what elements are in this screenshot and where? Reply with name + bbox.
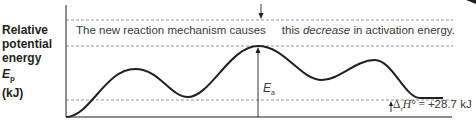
activation-energy-arrowhead xyxy=(256,47,261,53)
decrease-arrowhead xyxy=(259,13,264,19)
activation-energy-label: Ea xyxy=(263,81,275,96)
corner-mark xyxy=(466,0,476,4)
dh-value: +28.7 kJ xyxy=(428,98,472,110)
annotation-before: The new reaction mechanism causes xyxy=(76,24,266,36)
dh-equals: = xyxy=(416,98,428,110)
enthalpy-change-label: ΔrH° = +28.7 kJ xyxy=(393,98,472,113)
ea-subscript: a xyxy=(271,89,275,96)
annotation-suffix: in activation energy. xyxy=(350,24,455,36)
ea-symbol: E xyxy=(263,81,271,95)
energy-curve xyxy=(66,46,443,117)
annotation-emphasis: decrease xyxy=(303,24,350,36)
dh-symbol: H° xyxy=(403,98,416,110)
mechanism-annotation: The new reaction mechanism causesthis de… xyxy=(76,24,455,36)
annotation-prefix: this xyxy=(282,24,303,36)
